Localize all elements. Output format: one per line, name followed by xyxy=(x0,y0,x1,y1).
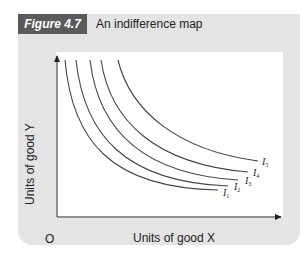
curve-labels: I1I2I3I4I5 xyxy=(222,156,268,199)
indifference-curves xyxy=(65,60,258,190)
curve-i5 xyxy=(118,60,258,161)
y-axis-label: Units of good Y xyxy=(23,123,37,205)
curve-label-i1: I1 xyxy=(222,187,229,199)
origin-label: O xyxy=(45,232,54,246)
curve-i1 xyxy=(65,60,218,190)
indifference-chart: I1I2I3I4I5 xyxy=(0,0,308,266)
x-axis-label: Units of good X xyxy=(133,231,215,245)
curve-i2 xyxy=(76,60,228,186)
curve-label-i5: I5 xyxy=(261,156,268,168)
curve-label-i3: I3 xyxy=(244,175,251,187)
curve-label-i2: I2 xyxy=(233,181,240,193)
curve-label-i4: I4 xyxy=(252,167,259,179)
